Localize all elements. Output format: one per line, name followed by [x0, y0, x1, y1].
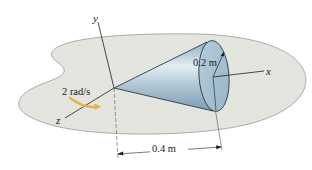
angular-velocity-label: 2 rad/s [62, 86, 90, 97]
z-axis-label: z [55, 114, 61, 126]
y-axis-label: y [92, 12, 98, 24]
length-label: 0.4 m [152, 143, 176, 154]
radius-label: 0.2 m [193, 57, 217, 68]
diagram-canvas: y x z 2 rad/s 0.2 m 0.4 m [0, 0, 312, 170]
x-axis-label: x [265, 65, 271, 77]
cone-diagram: y x z 2 rad/s 0.2 m 0.4 m [0, 0, 312, 170]
